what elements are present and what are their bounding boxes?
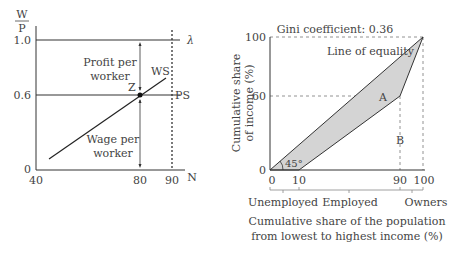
charts-canvas: W P 1.0 0.6 0 40 80 90 N λ PS WS Z — [0, 0, 462, 254]
x-tick-40: 40 — [29, 174, 43, 187]
group-unemployed: Unemployed — [248, 196, 318, 209]
y-tick-100: 100 — [245, 31, 266, 44]
equality-label: Line of equality — [327, 45, 415, 58]
x-axis-label-line1: Cumulative share of the population — [248, 215, 445, 228]
x-tick-80: 80 — [133, 174, 147, 187]
group-owners: Owners — [405, 196, 448, 209]
profit-label-line1: Profit per — [83, 56, 137, 69]
profit-label-line2: worker — [90, 70, 130, 83]
lambda-label: λ — [186, 34, 194, 47]
wage-label-line1: Wage per — [87, 133, 141, 146]
ps-label: PS — [175, 89, 190, 102]
x-tick-90: 90 — [165, 174, 179, 187]
equilibrium-point — [138, 93, 143, 98]
x-axis-label: N — [187, 171, 197, 184]
area-b-label: B — [396, 134, 404, 147]
y-axis-label-line2: of income (%) — [243, 64, 256, 141]
x-tick-100: 100 — [414, 174, 435, 187]
x-axis-label-line2: from lowest to highest income (%) — [251, 230, 443, 243]
wage-setting-chart: W P 1.0 0.6 0 40 80 90 N λ PS WS Z — [14, 8, 198, 187]
x-tick-0: 0 — [269, 174, 276, 187]
lorenz-curve-chart: Gini coefficient: 0.36 45° Line of equal… — [230, 23, 448, 243]
group-employed: Employed — [322, 196, 377, 209]
x-tick-90: 90 — [393, 174, 407, 187]
wage-label-line2: worker — [93, 147, 133, 160]
y-axis-label-num: W — [16, 8, 28, 21]
y-tick-1: 1.0 — [14, 34, 32, 47]
y-tick-06: 0.6 — [14, 89, 32, 102]
x-tick-10: 10 — [292, 174, 306, 187]
ws-label: WS — [151, 65, 170, 78]
angle-label: 45° — [285, 158, 303, 169]
y-axis-label-line1: Cumulative share — [230, 54, 243, 152]
gini-title: Gini coefficient: 0.36 — [277, 23, 393, 36]
y-tick-0: 0 — [259, 164, 266, 177]
area-a-label: A — [378, 91, 388, 104]
